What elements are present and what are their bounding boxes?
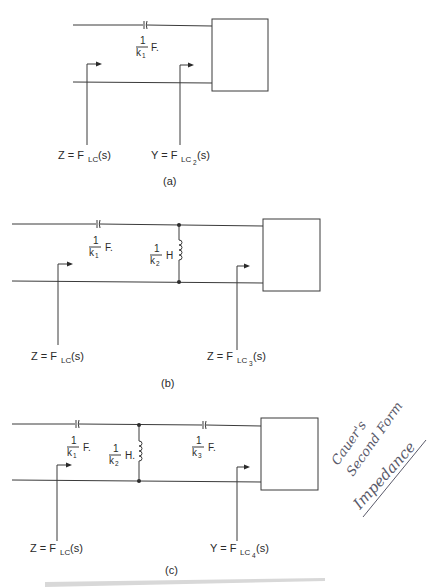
- bottom-wire-a: [73, 82, 212, 83]
- svg-text:Y = F: Y = F: [151, 149, 178, 161]
- svg-text:1: 1: [154, 243, 160, 254]
- capacitor-icon: [144, 21, 147, 29]
- left-impedance-label: Z = F LC (s): [30, 542, 83, 557]
- capacitor-icon: [203, 421, 206, 429]
- svg-text:(s): (s): [71, 350, 84, 362]
- svg-text:(s): (s): [197, 149, 210, 161]
- right-admittance-label: Y = F LC 4 (s): [210, 542, 269, 559]
- svg-text:1: 1: [71, 435, 77, 446]
- caption-b: (b): [161, 377, 174, 389]
- svg-text:F.: F.: [151, 42, 159, 53]
- svg-text:3: 3: [198, 452, 202, 459]
- capacitor-icon: [97, 220, 100, 228]
- svg-text:LC: LC: [88, 155, 98, 164]
- svg-text:(s): (s): [70, 542, 83, 554]
- svg-text:H.: H.: [125, 450, 135, 461]
- caption-c: (c): [165, 564, 178, 576]
- svg-text:H: H: [166, 250, 173, 261]
- svg-text:(s): (s): [256, 542, 269, 554]
- load-box-c: [261, 418, 318, 490]
- left-impedance-label: Z = F LC (s): [31, 350, 84, 365]
- top-wire-a-right: [147, 25, 212, 26]
- svg-text:1: 1: [113, 443, 119, 454]
- load-box-a: [212, 19, 268, 91]
- svg-text:1: 1: [73, 452, 77, 459]
- capacitor-icon: [76, 420, 79, 428]
- svg-text:Z = F: Z = F: [58, 149, 84, 161]
- svg-text:Z = F: Z = F: [31, 350, 57, 362]
- cap-a1-num: 1: [140, 35, 146, 46]
- svg-text:1: 1: [93, 235, 99, 246]
- right-impedance-label: Z = F LC 3 (s): [207, 350, 266, 367]
- top-wire-c-right: [206, 425, 261, 426]
- svg-text:2: 2: [156, 260, 160, 267]
- svg-text:Y = F: Y = F: [210, 542, 237, 554]
- bottom-wire-c: [12, 480, 261, 482]
- svg-text:1: 1: [95, 252, 99, 259]
- page-edge-shadow: [45, 578, 325, 587]
- svg-text:F.: F.: [105, 242, 113, 253]
- panel-b: 1 k 1 F. 1 k 2 H Z = F LC (s) Z = F LC: [12, 219, 320, 389]
- panel-c: 1 k 1 F. 1 k 2 H. 1 k 3 F. Z = F LC (s): [12, 418, 325, 587]
- arrow-icon: [58, 262, 73, 346]
- arrow-icon: [180, 63, 194, 146]
- svg-text:LC: LC: [61, 356, 71, 365]
- svg-text:1: 1: [142, 52, 146, 59]
- panel-a: 1 k 1 F. Z = F LC (s) Y = F LC 2 (s): [58, 19, 268, 187]
- svg-text:Z = F: Z = F: [207, 350, 233, 362]
- svg-text:LC: LC: [181, 155, 191, 164]
- svg-text:(s): (s): [98, 149, 111, 161]
- handwritten-note: Cauer's Second Form Impedance: [328, 399, 426, 517]
- svg-text:Z = F: Z = F: [30, 542, 56, 554]
- inductor-icon: [139, 425, 142, 481]
- arrow-icon: [57, 463, 72, 542]
- top-wire-b-right: [100, 224, 263, 226]
- circuit-diagram: 1 k 1 F. Z = F LC (s) Y = F LC 2 (s): [0, 0, 438, 587]
- caption-a: (a): [163, 175, 176, 187]
- svg-text:1: 1: [196, 435, 202, 446]
- svg-text:2: 2: [115, 460, 119, 467]
- arrow-icon: [237, 465, 250, 542]
- arrow-icon: [87, 62, 102, 146]
- svg-text:LC: LC: [237, 356, 247, 365]
- inductor-icon: [179, 225, 182, 282]
- svg-text:F.: F.: [83, 442, 91, 453]
- svg-text:LC: LC: [240, 548, 250, 557]
- svg-text:F.: F.: [208, 442, 216, 453]
- right-admittance-label: Y = F LC 2 (s): [151, 149, 210, 166]
- arrow-icon: [237, 264, 250, 351]
- svg-text:(s): (s): [253, 350, 266, 362]
- bottom-wire-b: [12, 281, 263, 283]
- svg-text:LC: LC: [60, 548, 70, 557]
- left-impedance-label: Z = F LC (s): [58, 149, 111, 164]
- load-box-b: [263, 219, 320, 291]
